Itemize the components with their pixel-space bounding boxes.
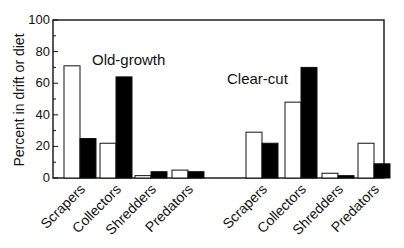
bar-clear-cut-predators-open [358,143,374,178]
bar-old-growth-shredders-filled [151,172,167,178]
bar-clear-cut-shredders-open [322,173,338,178]
bar-old-growth-predators-filled [188,172,204,178]
y-tick-label: 60 [36,75,50,90]
bar-clear-cut-collectors-filled [301,67,317,178]
y-tick-label: 100 [28,12,50,27]
annotation-old-growth: Old-growth [92,51,165,68]
bar-clear-cut-collectors-open [285,102,301,178]
y-tick-label: 80 [36,44,50,59]
x-axis-labels: ScrapersCollectorsShreddersPredatorsScra… [37,181,382,238]
bar-old-growth-predators-open [172,170,188,178]
y-tick-label: 40 [36,107,50,122]
annotation-clear-cut: Clear-cut [227,70,289,87]
y-tick-label: 20 [36,138,50,153]
bar-old-growth-scrapers-open [64,66,80,178]
bar-old-growth-collectors-filled [116,77,132,178]
bar-clear-cut-shredders-filled [338,176,354,178]
bar-chart: 020406080100 ScrapersCollectorsShredders… [0,0,404,248]
bar-clear-cut-predators-filled [374,164,390,178]
bar-old-growth-collectors-open [100,143,116,178]
y-axis-label: Percent in drift or diet [11,33,27,166]
bar-old-growth-shredders-open [135,176,151,178]
bar-old-growth-scrapers-filled [80,139,96,179]
bar-clear-cut-scrapers-filled [262,143,278,178]
y-tick-label: 0 [43,170,50,185]
bar-clear-cut-scrapers-open [246,132,262,178]
